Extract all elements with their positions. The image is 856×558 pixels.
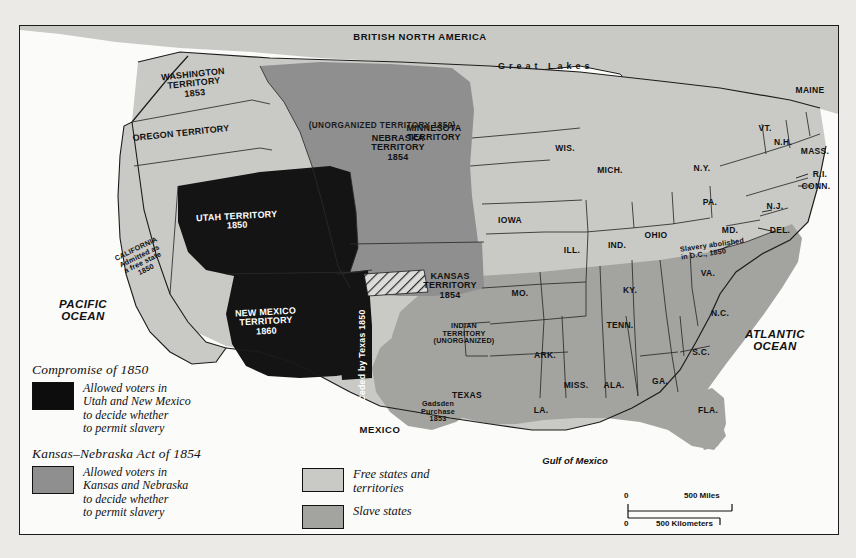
legend-title-compromise: Compromise of 1850 [32, 362, 284, 378]
legend-panel: Compromise of 1850 Allowed voters in Uta… [32, 362, 284, 520]
legend-desc-kansas-nebraska: Allowed voters in Kansas and Nebraska to… [83, 466, 188, 520]
legend-label-slave-states: Slave states [353, 505, 412, 519]
legend-title-kansas-nebraska: Kansas–Nebraska Act of 1854 [32, 446, 284, 462]
region-utah-territory [178, 166, 358, 278]
legend-swatch-free-states [302, 468, 344, 492]
legend-label-free-states: Free states and territories [353, 468, 430, 496]
legend-swatch-compromise [32, 382, 74, 410]
legend-panel-states: Free states and territories Slave states [302, 468, 482, 529]
legend-swatch-kansas-nebraska [32, 466, 74, 494]
map-page: BRITISH NORTH AMERICA MEXICO Great Lakes… [0, 0, 856, 558]
legend-swatch-slave-states [302, 505, 344, 529]
legend-row-free-states: Free states and territories [302, 468, 482, 496]
legend-desc-compromise: Allowed voters in Utah and New Mexico to… [83, 382, 191, 436]
legend-row-compromise: Allowed voters in Utah and New Mexico to… [32, 382, 284, 436]
legend-row-kansas-nebraska: Allowed voters in Kansas and Nebraska to… [32, 466, 284, 520]
legend-row-slave-states: Slave states [302, 505, 482, 529]
map-frame: BRITISH NORTH AMERICA MEXICO Great Lakes… [19, 25, 839, 535]
region-ceded-hatch [364, 270, 428, 296]
